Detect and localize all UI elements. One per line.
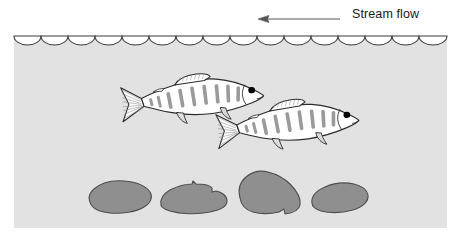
stream-flow-label: Stream flow: [352, 7, 419, 21]
stream-flow-arrow: [258, 15, 340, 22]
arrowhead-left-icon: [258, 15, 269, 22]
stream-scene-canvas: [0, 0, 460, 246]
rock-1: [89, 181, 151, 213]
stream-diagram: Stream flow: [0, 0, 460, 246]
